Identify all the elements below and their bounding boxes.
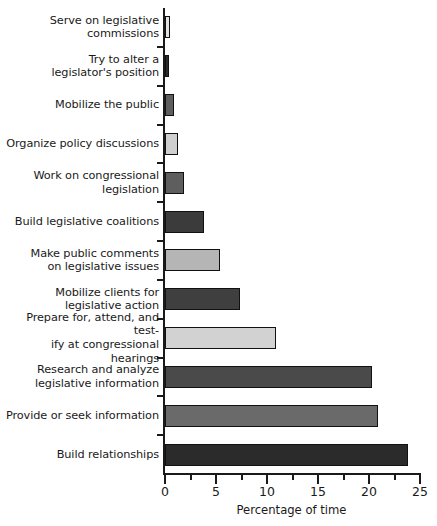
bar-category-label: Organize policy discussions (0, 137, 159, 151)
bar (165, 172, 184, 194)
x-axis-major-tick (317, 473, 319, 484)
x-axis-major-tick (266, 473, 268, 484)
x-axis-minor-tick (241, 473, 243, 480)
bar-row: Serve on legislative commissions (0, 8, 437, 47)
x-axis-major-tick (215, 473, 217, 484)
bar-row: Work on congressional legislation (0, 163, 437, 202)
x-axis-major-tick (368, 473, 370, 484)
bar (165, 288, 240, 310)
x-axis-major-tick (164, 473, 166, 484)
bar (165, 55, 169, 77)
x-axis-title: Percentage of time (163, 503, 420, 517)
bar (165, 444, 408, 466)
x-axis-minor-tick (292, 473, 294, 480)
bar (165, 405, 378, 427)
bar-row: Build relationships (0, 435, 437, 474)
bar-category-label: Serve on legislative commissions (0, 14, 159, 41)
bar-row: Prepare for, attend, and test- ify at co… (0, 319, 437, 358)
bar-row: Provide or seek information (0, 396, 437, 435)
bar-row: Try to alter a legislator's position (0, 47, 437, 86)
bar (165, 94, 174, 116)
bar (165, 249, 220, 271)
bar-category-label: Try to alter a legislator's position (0, 53, 159, 80)
x-axis-minor-tick (394, 473, 396, 480)
x-axis-tick-label: 20 (349, 484, 389, 499)
bar-row: Make public comments on legislative issu… (0, 241, 437, 280)
x-axis-tick-label: 25 (400, 484, 437, 499)
x-axis-minor-tick (190, 473, 192, 480)
bar-row: Build legislative coalitions (0, 202, 437, 241)
bar (165, 16, 170, 38)
bar (165, 211, 204, 233)
x-axis-minor-tick (343, 473, 345, 480)
bar (165, 327, 276, 349)
bar-row: Mobilize the public (0, 86, 437, 125)
bar-category-label: Make public comments on legislative issu… (0, 247, 159, 274)
bar (165, 366, 372, 388)
bar-category-label: Build relationships (0, 448, 159, 462)
bar-category-label: Mobilize clients for legislative action (0, 286, 159, 313)
x-axis-tick-label: 15 (298, 484, 338, 499)
bar-row: Research and analyze legislative informa… (0, 358, 437, 397)
bar-category-label: Mobilize the public (0, 98, 159, 112)
x-axis-tick-label: 5 (196, 484, 236, 499)
bar-chart: Serve on legislative commissionsTry to a… (0, 0, 437, 526)
x-axis-tick-label: 10 (247, 484, 287, 499)
bar-category-label: Build legislative coalitions (0, 215, 159, 229)
plot-area: Serve on legislative commissionsTry to a… (0, 0, 437, 526)
x-axis-major-tick (419, 473, 421, 484)
bar-category-label: Provide or seek information (0, 409, 159, 423)
x-axis-tick-label: 0 (145, 484, 185, 499)
bar-row: Organize policy discussions (0, 125, 437, 164)
bar-category-label: Research and analyze legislative informa… (0, 363, 159, 390)
bar-rows: Serve on legislative commissionsTry to a… (0, 8, 437, 474)
bar-category-label: Work on congressional legislation (0, 169, 159, 196)
bar (165, 133, 178, 155)
